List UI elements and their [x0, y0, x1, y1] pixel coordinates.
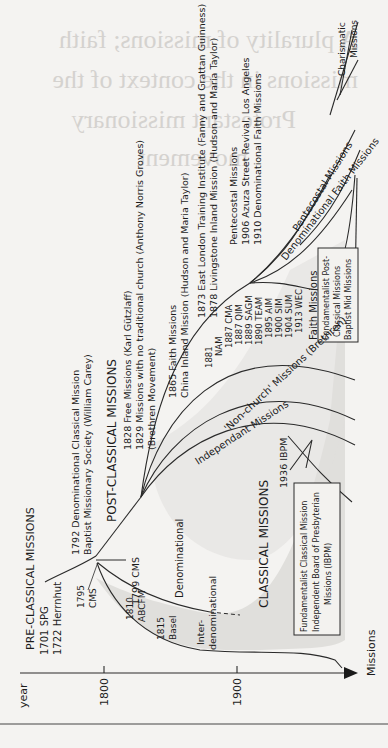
ibpm-box-line-3: Missions (IBPM) — [324, 543, 333, 605]
pre-classical-item-1701: 1701 SPG — [39, 606, 50, 655]
pre-classical-item-1722: 1722 Herrnhut — [52, 582, 63, 655]
pre-classical-title: PRE-CLASSICAL MISSIONS — [24, 507, 37, 650]
post-classical-1828: 1828 Free Missions (Karl Gützlaff) — [122, 290, 133, 450]
cms-1795-year: 1795 — [76, 585, 86, 608]
post-box-line-3: Baptist Mid Missions — [344, 259, 353, 340]
missions-diagram: A plurality of missions; faith missions … — [0, 0, 388, 748]
classical-missions-title: CLASSICAL MISSIONS — [257, 480, 271, 608]
tick-label-1800: 1800 — [98, 678, 111, 706]
ibpm-year-label: 1936 IBPM — [278, 438, 289, 488]
pre-classical-group: PRE-CLASSICAL MISSIONS 1701 SPG 1722 Her… — [24, 507, 63, 655]
faith-1865: 1865 Faith Missions — [167, 305, 178, 398]
axis-label-missions: Missions — [365, 629, 378, 676]
interdenominational-label-2: denominational — [207, 576, 218, 650]
faith-list-aim: 1895 AIM — [264, 298, 274, 338]
basel-year: 1815 — [156, 617, 166, 640]
denominational-faith-1910: 1910 Denominational Faith Missions — [252, 73, 263, 245]
abcfm-year: 1810 — [125, 597, 135, 620]
faith-1878: 1878 Livingstone Inland Mission (Hudson … — [208, 38, 219, 318]
faith-1873: 1873 East London Training Institute (Fan… — [196, 4, 207, 318]
ibpm-box-line-1: Fundamentalist Classical Mission — [300, 501, 309, 632]
faith-list-nam: NAM — [214, 336, 224, 356]
faith-list-wec: 1913 WEC — [294, 289, 304, 333]
basel-label: Basel — [168, 616, 178, 640]
classical-lead-bms: Baptist Missionary Society (William Care… — [82, 354, 93, 555]
china-inland-mission: China Inland Mission (Hudson and Maria T… — [179, 173, 190, 398]
charismatic-label-2: Missions — [349, 20, 359, 58]
cms-1795-label: CMS — [88, 588, 98, 608]
denominational-label: Denominational — [174, 519, 185, 598]
faith-list-team: 1890 TEAM — [254, 297, 264, 345]
faith-list-cma: 1887 CMA — [224, 304, 234, 348]
abcfm-label: ABCFM — [137, 591, 147, 622]
axis-label-year: year — [17, 683, 30, 708]
azuza-street: 1906 Azuza Street Revival, Los Angeles — [240, 57, 251, 245]
fundamentalist-classical-box: Fundamentalist Classical Mission Indepen… — [294, 483, 340, 635]
denominational-faith-missions-label: Denominational Faith Missions — [279, 136, 381, 263]
post-classical-brethren: (Brethren Movement) — [146, 348, 157, 450]
faith-missions-label: Faith Missions — [308, 271, 319, 340]
charismatic-label-1: Charismatic — [337, 22, 347, 76]
faith-list-1881: 1881 — [204, 346, 214, 368]
faith-list-sim: 1900 SIM — [274, 298, 284, 338]
post-classical-1829: 1829 Missions with no traditional church… — [134, 140, 145, 450]
faith-list-qim: 1887 QIM — [234, 304, 244, 345]
pentecostal-note-title: Pentecostal Missions — [228, 147, 239, 245]
interdenominational-label-1: Inter- — [195, 620, 206, 645]
tick-label-1900: 1900 — [231, 678, 244, 706]
faith-list-sum: 1904 SUM — [284, 295, 294, 338]
faith-list-sagm: 1889 SAGM — [244, 296, 254, 345]
ibpm-box-line-2: Independent Board of Presbyterian — [312, 492, 321, 632]
classical-lead-1792: 1792 Denominational Classical Mission — [70, 370, 81, 555]
axis-arrowhead-icon — [344, 667, 358, 679]
post-classical-title: POST-CLASSICAL MISSIONS — [105, 359, 119, 522]
